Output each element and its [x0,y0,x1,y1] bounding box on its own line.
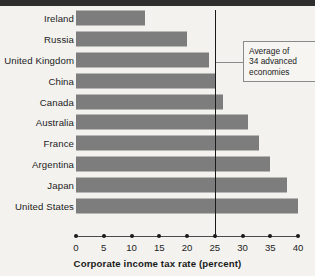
bar-australia [76,115,248,130]
bar-france [76,136,259,151]
x-tick-dot-35 [268,234,272,238]
x-tick-label-25: 25 [209,242,220,253]
table-row: Australia [0,112,315,133]
x-tick-label-35: 35 [265,242,276,253]
table-row: France [0,133,315,154]
x-tick-label-5: 5 [101,242,106,253]
x-tick-label-15: 15 [154,242,165,253]
x-tick-label-30: 30 [237,242,248,253]
x-axis: 0 5 10 15 20 25 30 35 40 [0,234,315,256]
bar-russia [76,32,187,47]
category-label-canada: Canada [40,96,74,107]
x-tick-dot-5 [102,234,106,238]
x-tick-dot-20 [185,234,189,238]
callout-leader-line [216,62,243,63]
x-tick-dot-40 [296,234,300,238]
x-tick-dot-30 [241,234,245,238]
category-label-australia: Australia [36,117,74,128]
callout-line-2: 34 advanced [249,56,313,66]
category-label-united-states: United States [15,200,74,211]
category-label-ireland: Ireland [44,13,74,24]
bar-argentina [76,156,270,171]
top-divider-rule [0,0,315,6]
x-tick-dot-15 [157,234,161,238]
bar-united-states [76,198,298,213]
category-label-russia: Russia [44,34,74,45]
average-annotation-callout: Average of 34 advanced economies [243,41,315,82]
bar-ireland [76,11,145,26]
x-tick-label-10: 10 [126,242,137,253]
bar-united-kingdom [76,52,209,67]
callout-line-3: economies [249,67,313,77]
corporate-tax-rate-bar-chart: Ireland Russia United Kingdom China Cana… [0,0,315,276]
callout-line-1: Average of [249,46,313,56]
bar-china [76,73,215,88]
table-row: Japan [0,174,315,195]
category-label-united-kingdom: United Kingdom [4,54,74,65]
bar-japan [76,177,287,192]
table-row: Canada [0,91,315,112]
table-row: Ireland [0,8,315,29]
category-label-china: China [48,75,74,86]
x-axis-title: Corporate income tax rate (percent) [0,258,315,269]
x-tick-label-0: 0 [73,242,78,253]
category-label-argentina: Argentina [32,158,74,169]
bar-canada [76,94,223,109]
table-row: United States [0,195,315,216]
x-tick-dot-10 [130,234,134,238]
x-tick-dot-0 [74,234,78,238]
category-label-japan: Japan [47,179,74,190]
table-row: Argentina [0,154,315,175]
x-tick-label-20: 20 [182,242,193,253]
x-tick-label-40: 40 [293,242,304,253]
category-label-france: France [44,138,74,149]
average-reference-line [215,10,217,238]
